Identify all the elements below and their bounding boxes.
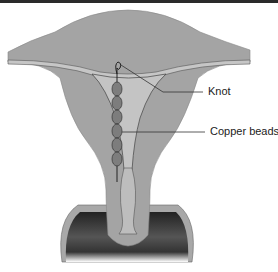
bead: [112, 138, 122, 152]
copper-beads-label: Copper beads: [210, 125, 278, 137]
bead: [112, 124, 122, 138]
bead: [112, 110, 122, 124]
knot-label: Knot: [208, 85, 231, 97]
bead: [112, 96, 122, 110]
bead: [112, 152, 122, 166]
bead: [112, 82, 122, 96]
